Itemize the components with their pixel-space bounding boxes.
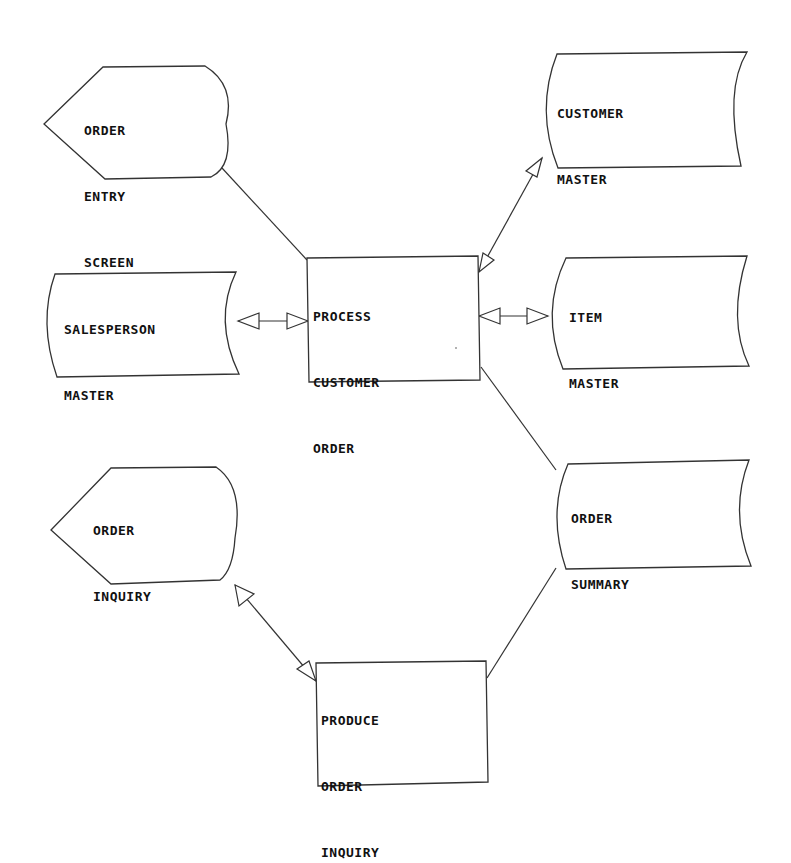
label-item-master: ITEM MASTER — [569, 263, 619, 417]
arrowhead-icon — [235, 585, 254, 606]
label-line: SALESPERSON — [64, 319, 156, 341]
label-line: MASTER — [557, 169, 624, 191]
connector-order-summary-to-produce — [487, 568, 556, 678]
connector-order-entry-to-process — [222, 168, 307, 260]
display-order-entry-screen — [44, 66, 228, 179]
label-order-entry-screen: ORDER ENTRY SCREEN — [84, 76, 134, 296]
label-line: MASTER — [64, 385, 156, 407]
label-line: SCREEN — [84, 252, 134, 274]
label-line: ORDER — [321, 776, 379, 798]
arrowhead-icon — [287, 313, 308, 329]
label-line: INQUIRY — [321, 842, 379, 863]
connector-process-to-order-summary — [481, 367, 556, 470]
label-line: ORDER — [313, 438, 380, 460]
label-salesperson-master: SALESPERSON MASTER — [64, 275, 156, 429]
label-line: SUMMARY — [571, 574, 629, 596]
label-produce-order-inquiry: PRODUCE ORDER INQUIRY — [321, 666, 379, 863]
label-line: INQUIRY — [93, 586, 151, 608]
label-line: PRODUCE — [321, 710, 379, 732]
label-line: CUSTOMER — [557, 103, 624, 125]
arrowhead-icon — [297, 661, 316, 681]
speck — [455, 347, 457, 349]
label-customer-master: CUSTOMER MASTER — [557, 59, 624, 213]
label-order-summary: ORDER SUMMARY — [571, 464, 629, 618]
arrowhead-icon — [479, 308, 500, 324]
label-process-customer-order: PROCESS CUSTOMER ORDER — [313, 262, 380, 482]
arrowhead-icon — [527, 308, 548, 324]
label-line: MASTER — [569, 373, 619, 395]
label-line: ORDER — [93, 520, 151, 542]
label-order-inquiry: ORDER INQUIRY — [93, 476, 151, 630]
arrowhead-icon — [526, 158, 542, 177]
arrowhead-icon — [238, 313, 259, 329]
label-line: CUSTOMER — [313, 372, 380, 394]
arrowhead-icon — [479, 253, 494, 272]
label-line: ORDER — [571, 508, 629, 530]
label-line: PROCESS — [313, 306, 380, 328]
label-line: ORDER — [84, 120, 134, 142]
label-line: ENTRY — [84, 186, 134, 208]
label-line: ITEM — [569, 307, 619, 329]
